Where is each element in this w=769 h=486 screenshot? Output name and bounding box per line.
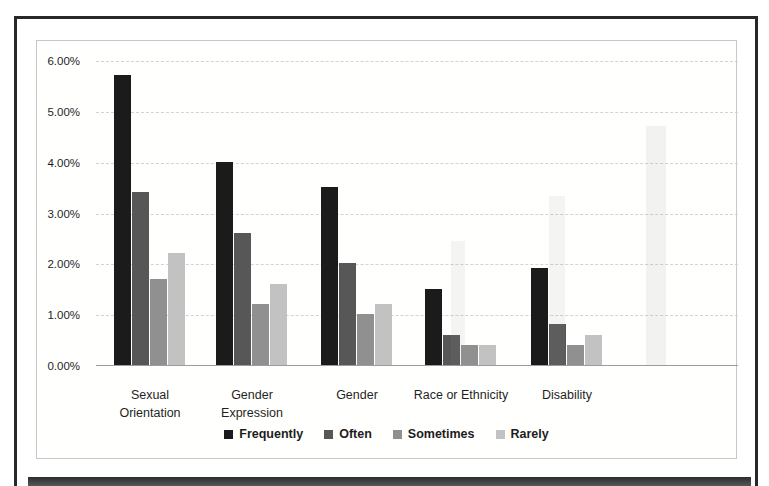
category-label-gender-expression: GenderExpression — [221, 386, 283, 422]
legend-marker-icon — [224, 430, 233, 439]
gridline-5-00 — [96, 112, 738, 113]
bar-race-or-ethnicity-often — [443, 335, 460, 366]
bar-gender-expression-rarely — [270, 284, 287, 365]
gridline-2-00 — [96, 264, 738, 265]
bar-disability-sometimes — [567, 345, 584, 365]
gridline-3-00 — [96, 214, 738, 215]
legend-marker-icon — [324, 430, 333, 439]
gridline-6-00 — [96, 61, 738, 62]
bar-gender-often — [339, 263, 356, 365]
y-tick-label-3-00: 3.00% — [38, 206, 80, 222]
bar-gender-sometimes — [357, 314, 374, 365]
legend-label: Sometimes — [408, 427, 475, 441]
gridline-4-00 — [96, 163, 738, 164]
bar-gender-expression-sometimes — [252, 304, 269, 365]
legend-marker-icon — [393, 430, 402, 439]
bar-sexual-orientation-sometimes — [150, 279, 167, 365]
legend-item-rarely: Rarely — [496, 427, 549, 441]
legend-label: Often — [339, 427, 372, 441]
category-label-gender: Gender — [336, 386, 378, 404]
category-label-race-or-ethnicity: Race or Ethnicity — [414, 386, 508, 404]
legend-item-sometimes: Sometimes — [393, 427, 475, 441]
legend-label: Rarely — [511, 427, 549, 441]
legend-item-often: Often — [324, 427, 372, 441]
category-label-sexual-orientation: SexualOrientation — [119, 386, 180, 422]
bar-sexual-orientation-rarely — [168, 253, 185, 365]
bar-gender-expression-often — [234, 233, 251, 365]
next-section-top-border — [28, 477, 751, 486]
y-tick-label-2-00: 2.00% — [38, 256, 80, 272]
category-label-disability: Disability — [542, 386, 592, 404]
gridline-1-00 — [96, 315, 738, 316]
bar-gender-expression-frequently — [216, 162, 233, 365]
legend: FrequentlyOftenSometimesRarely — [37, 427, 736, 441]
bar-disability-often — [549, 324, 566, 365]
legend-marker-icon — [496, 430, 505, 439]
bar-sexual-orientation-frequently — [114, 75, 131, 365]
y-tick-label-0-00: 0.00% — [38, 358, 80, 374]
bar-race-or-ethnicity-rarely — [479, 345, 496, 365]
bar-gender-frequently — [321, 187, 338, 365]
bar-race-or-ethnicity-frequently — [425, 289, 442, 365]
legend-label: Frequently — [239, 427, 303, 441]
bar-race-or-ethnicity-sometimes — [461, 345, 478, 365]
y-tick-label-4-00: 4.00% — [38, 155, 80, 171]
bar-disability-frequently — [531, 268, 548, 365]
scanned-document-page: FrequentlyOftenSometimesRarely 0.00%1.00… — [0, 0, 769, 486]
bar-gender-rarely — [375, 304, 392, 365]
bar-disability-rarely — [585, 335, 602, 366]
legend-item-frequently: Frequently — [224, 427, 303, 441]
y-tick-label-6-00: 6.00% — [38, 53, 80, 69]
y-tick-label-5-00: 5.00% — [38, 104, 80, 120]
bar-sexual-orientation-often — [132, 192, 149, 365]
y-tick-label-1-00: 1.00% — [38, 307, 80, 323]
plot-area — [96, 61, 738, 366]
chart-container: FrequentlyOftenSometimesRarely 0.00%1.00… — [36, 40, 737, 459]
